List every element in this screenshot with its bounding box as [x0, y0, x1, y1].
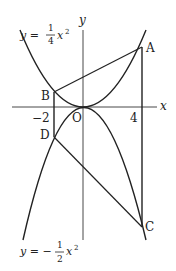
upper-eq-denominator: 4 [48, 36, 54, 46]
lower-eq-denominator: 2 [57, 254, 63, 264]
segment-ab [54, 47, 142, 92]
tick-label-neg2: −2 [32, 111, 50, 125]
upper-eq-prefix: y = [19, 29, 39, 42]
lower-eq-numerator: 1 [57, 240, 63, 250]
y-axis-label: y [78, 13, 86, 27]
lower-eq-var: x [66, 245, 73, 258]
upper-eq-var: x [57, 29, 64, 42]
point-a-label: A [145, 41, 155, 55]
lower-curve-equation: y = − 1 2 x 2 [19, 240, 78, 264]
lower-eq-prefix: y = − [19, 245, 52, 258]
tick-label-4: 4 [130, 111, 138, 125]
lower-eq-exp: 2 [74, 244, 78, 252]
point-d-label: D [40, 128, 50, 142]
upper-curve-equation: y = 1 4 x 2 [19, 23, 69, 46]
segment-dc [54, 137, 142, 227]
upper-eq-numerator: 1 [48, 23, 54, 33]
upper-eq-exp: 2 [65, 28, 69, 36]
origin-label: O [72, 111, 82, 125]
point-c-label: C [145, 220, 154, 234]
x-axis-label: x [160, 99, 167, 113]
point-b-label: B [41, 89, 50, 103]
diagram-canvas: x y O −2 4 A B C D y = 1 4 x 2 y = − 1 2… [0, 0, 176, 271]
